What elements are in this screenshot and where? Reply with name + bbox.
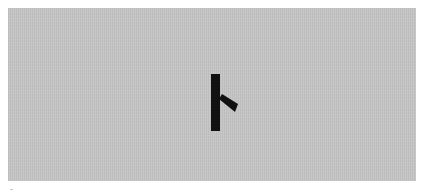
caption-fragment: - <box>10 186 13 193</box>
rune-glyph-icon <box>203 66 243 136</box>
image-card <box>8 8 416 181</box>
